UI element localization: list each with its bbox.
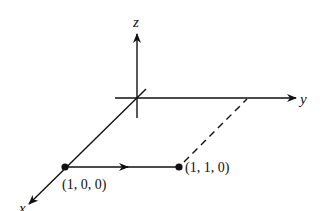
point-1-0-0 [61, 163, 68, 170]
dashed-projection-line [184, 99, 247, 162]
coordinate-diagram: z y x (1, 0, 0) (1, 1, 0) [0, 0, 323, 211]
point-1-1-0 [175, 163, 182, 170]
y-axis-label: y [298, 91, 307, 107]
point-1-0-0-label: (1, 0, 0) [62, 177, 107, 193]
z-axis-label: z [132, 14, 139, 30]
point-1-1-0-label: (1, 1, 0) [185, 160, 230, 176]
x-axis-label: x [18, 200, 26, 211]
